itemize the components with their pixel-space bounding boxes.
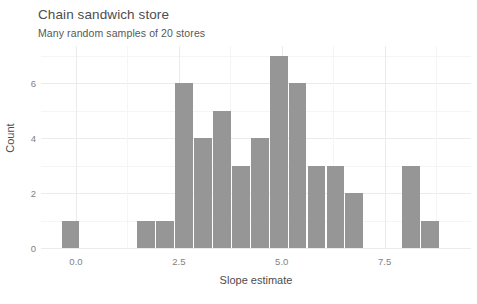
y-axis-tick-label: 4 (31, 133, 36, 144)
x-axis-title: Slope estimate (41, 274, 471, 286)
chart-title: Chain sandwich store (38, 7, 169, 22)
histogram-bar (137, 221, 155, 248)
x-axis-tick-label: 5.0 (275, 256, 288, 267)
x-axis-tick-label: 2.5 (172, 256, 185, 267)
y-axis-title: Count (4, 98, 16, 178)
gridline-minor-x (127, 46, 128, 248)
x-axis-tick-label: 7.5 (378, 256, 391, 267)
histogram-bar (345, 193, 363, 248)
histogram-bar (251, 138, 269, 248)
gridline-minor-y (41, 111, 471, 112)
gridline-minor-x (436, 46, 437, 248)
histogram-bar (289, 83, 307, 248)
y-axis-tick-label: 0 (31, 243, 36, 254)
histogram-bar (62, 221, 80, 248)
gridline-major-y (41, 83, 471, 84)
gridline-major-x (385, 46, 386, 248)
histogram-bar (156, 221, 174, 248)
plot-area (41, 46, 471, 248)
gridline-minor-y (41, 56, 471, 57)
x-axis-ticks: 0.02.55.07.5 (41, 256, 471, 270)
histogram-bar (175, 83, 193, 248)
histogram-bar (270, 56, 288, 248)
histogram-bar (402, 166, 420, 248)
y-axis-tick-label: 2 (31, 188, 36, 199)
histogram-figure: Chain sandwich store Many random samples… (0, 0, 477, 304)
histogram-bar (232, 166, 250, 248)
histogram-bar (308, 166, 326, 248)
chart-subtitle: Many random samples of 20 stores (38, 27, 205, 39)
histogram-bar (213, 111, 231, 248)
x-axis-tick-label: 0.0 (69, 256, 82, 267)
histogram-bar (194, 138, 212, 248)
histogram-bar (327, 166, 345, 248)
histogram-bar (421, 221, 439, 248)
gridline-major-x (76, 46, 77, 248)
y-axis-tick-label: 6 (31, 78, 36, 89)
gridline-major-y (41, 248, 471, 249)
